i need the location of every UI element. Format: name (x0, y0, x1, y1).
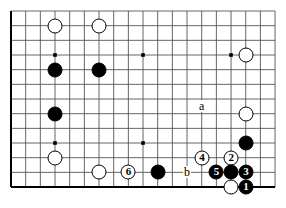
black-stone[interactable] (238, 136, 253, 151)
white-stone[interactable] (92, 165, 107, 180)
black-stone[interactable] (48, 62, 63, 77)
move-stone-6[interactable]: 6 (121, 165, 136, 180)
point-label-b: b (183, 166, 191, 178)
move-stone-2[interactable]: 2 (224, 150, 239, 165)
move-stone-5[interactable]: 5 (209, 165, 224, 180)
black-stone[interactable] (150, 165, 165, 180)
stone-move-number: 6 (126, 166, 131, 177)
white-stone[interactable] (238, 106, 253, 121)
star-point (141, 53, 145, 57)
white-stone[interactable] (92, 18, 107, 33)
star-point (229, 53, 233, 57)
stone-move-number: 2 (229, 152, 234, 163)
white-stone[interactable] (48, 150, 63, 165)
stone-move-number: 5 (214, 166, 219, 177)
white-stone[interactable] (224, 180, 239, 195)
stone-move-number: 4 (199, 152, 204, 163)
stone-move-number: 3 (243, 166, 248, 177)
white-stone[interactable] (238, 48, 253, 63)
star-point (53, 141, 57, 145)
black-stone[interactable] (224, 165, 239, 180)
stone-move-number: 1 (243, 181, 248, 192)
move-stone-1[interactable]: 1 (238, 180, 253, 195)
black-stone[interactable] (48, 106, 63, 121)
black-stone[interactable] (92, 62, 107, 77)
move-stone-4[interactable]: 4 (194, 150, 209, 165)
point-label-a: a (198, 100, 205, 112)
star-point (53, 53, 57, 57)
move-stone-3[interactable]: 3 (238, 165, 253, 180)
go-board-diagram: 642531 ab (0, 0, 286, 208)
white-stone[interactable] (48, 18, 63, 33)
star-point (141, 141, 145, 145)
